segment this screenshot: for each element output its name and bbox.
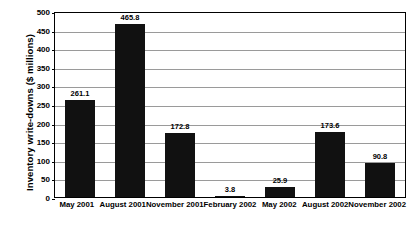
bar	[165, 133, 195, 197]
bar-group: 3.8	[205, 13, 255, 197]
y-axis-tick-label: 450	[22, 26, 50, 35]
y-axis-tick-label: 150	[22, 138, 50, 147]
bar-group: 90.8	[355, 13, 405, 197]
bar-value-label: 3.8	[225, 185, 235, 194]
bar-group: 172.8	[155, 13, 205, 197]
y-axis-tick-label: 350	[22, 63, 50, 72]
bar	[315, 132, 345, 197]
bar-group: 261.1	[55, 13, 105, 197]
y-axis-tick-label: 400	[22, 45, 50, 54]
x-axis-tick-label: November 2002	[348, 200, 406, 209]
plot-area: 261.1465.8172.83.825.9173.690.8	[54, 12, 406, 198]
x-axis-tick-label: November 2001	[146, 200, 204, 209]
bar	[365, 163, 395, 197]
bar-value-label: 90.8	[373, 152, 388, 161]
bar-group: 465.8	[105, 13, 155, 197]
y-axis-tick-label: 250	[22, 101, 50, 110]
x-axis-tick-label: February 2002	[204, 200, 257, 209]
y-axis-tick-label: 50	[22, 175, 50, 184]
bar	[215, 196, 245, 197]
x-axis-tick-label: August 2002	[302, 200, 348, 209]
x-axis-tick-labels: May 2001August 2001November 2001February…	[54, 200, 406, 209]
bar-value-label: 25.9	[273, 176, 288, 185]
y-axis-tick-label: 100	[22, 156, 50, 165]
bar	[65, 100, 95, 197]
y-axis-tick-label: 300	[22, 82, 50, 91]
bar	[265, 187, 295, 197]
y-axis-tick-label: 200	[22, 119, 50, 128]
bar-value-label: 261.1	[71, 89, 90, 98]
bar-series: 261.1465.8172.83.825.9173.690.8	[55, 13, 405, 197]
bar-chart: Inventory write-downs ($ millions) 05010…	[0, 0, 420, 250]
y-axis-tick-label: 0	[22, 194, 50, 203]
bar	[115, 24, 145, 197]
bar-value-label: 465.8	[121, 13, 140, 22]
x-axis-tick-label: May 2002	[256, 200, 302, 209]
bar-group: 25.9	[255, 13, 305, 197]
x-axis-tick-label: August 2001	[100, 200, 146, 209]
y-axis-tick-label: 500	[22, 8, 50, 17]
bar-value-label: 172.8	[171, 122, 190, 131]
bar-value-label: 173.6	[321, 121, 340, 130]
bar-group: 173.6	[305, 13, 355, 197]
x-axis-tick-label: May 2001	[54, 200, 100, 209]
y-axis-tick-labels: 050100150200250300350400450500	[22, 12, 50, 198]
